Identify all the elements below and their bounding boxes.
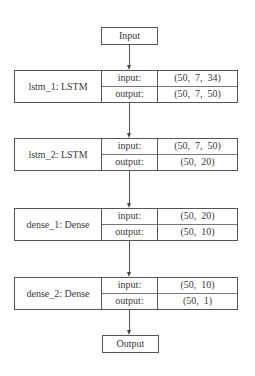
layer-name: lstm_2: LSTM — [15, 139, 102, 170]
layer-dense-2: dense_2: Dense input: (50, 10) output: (… — [14, 277, 238, 310]
edge-lstm-2-to-dense-1 — [129, 171, 130, 203]
output-shape: (50, 1) — [158, 294, 237, 310]
edge-input-to-lstm-1 — [129, 45, 130, 65]
edge-dense-2-to-output — [129, 310, 130, 330]
layer-lstm-2: lstm_2: LSTM input: (50, 7, 50) output: … — [14, 138, 238, 171]
input-node: Input — [101, 27, 158, 45]
output-label: output: — [102, 225, 158, 241]
input-label: input: — [102, 209, 158, 225]
edge-dense-1-to-dense-2 — [129, 241, 130, 272]
layer-name: dense_2: Dense — [15, 278, 102, 309]
input-label: input: — [102, 71, 158, 87]
output-label: output: — [102, 155, 158, 171]
input-shape: (50, 7, 50) — [158, 139, 237, 155]
layer-lstm-1: lstm_1: LSTM input: (50, 7, 34) output: … — [14, 70, 238, 103]
output-shape: (50, 7, 50) — [158, 87, 237, 103]
input-label: input: — [102, 278, 158, 294]
layer-name: dense_1: Dense — [15, 209, 102, 240]
output-node-label: Output — [117, 339, 145, 349]
input-shape: (50, 20) — [158, 209, 237, 225]
input-shape: (50, 7, 34) — [158, 71, 237, 87]
layer-name: lstm_1: LSTM — [15, 71, 102, 102]
output-shape: (50, 10) — [158, 225, 237, 241]
output-label: output: — [102, 294, 158, 310]
output-label: output: — [102, 87, 158, 103]
input-node-label: Input — [119, 31, 140, 41]
input-label: input: — [102, 139, 158, 155]
edge-lstm-1-to-lstm-2 — [129, 103, 130, 133]
layer-dense-1: dense_1: Dense input: (50, 20) output: (… — [14, 208, 238, 241]
input-shape: (50, 10) — [158, 278, 237, 294]
output-shape: (50, 20) — [158, 155, 237, 171]
output-node: Output — [102, 335, 159, 353]
